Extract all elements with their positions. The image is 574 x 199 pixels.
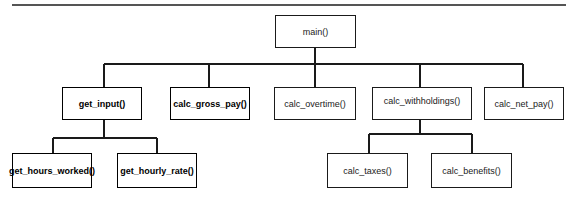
node-label: calc_overtime() (284, 99, 346, 109)
node-calc-net-pay: calc_net_pay() (484, 87, 564, 120)
node-calc-withholdings: calc_withholdings() (372, 87, 472, 120)
node-label: calc_taxes() (343, 166, 392, 176)
node-label: calc_net_pay() (494, 99, 553, 109)
node-calc-benefits: calc_benefits() (431, 153, 512, 188)
node-calc-taxes: calc_taxes() (327, 153, 408, 188)
node-label: get_hourly_rate() (120, 166, 194, 176)
node-label: calc_benefits() (442, 166, 501, 176)
node-get-hourly-rate: get_hourly_rate() (117, 153, 197, 188)
node-label: get_input() (79, 99, 126, 109)
node-calc-overtime: calc_overtime() (274, 87, 356, 120)
node-label: main() (303, 27, 329, 37)
node-get-input: get_input() (62, 87, 142, 120)
node-calc-gross-pay: calc_gross_pay() (170, 87, 250, 120)
node-main: main() (275, 15, 356, 48)
node-get-hours-worked: get_hours_worked() (12, 153, 92, 188)
node-label: calc_withholdings() (384, 96, 461, 106)
node-label: calc_gross_pay() (173, 99, 247, 109)
node-label: get_hours_worked() (9, 166, 95, 176)
